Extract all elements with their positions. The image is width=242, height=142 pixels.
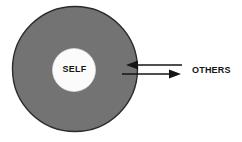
diagram-canvas: SELF OTHERS [0,0,242,142]
arrow-outward-head [169,70,181,79]
others-label: OTHERS [192,66,231,75]
self-label: SELF [53,65,96,74]
